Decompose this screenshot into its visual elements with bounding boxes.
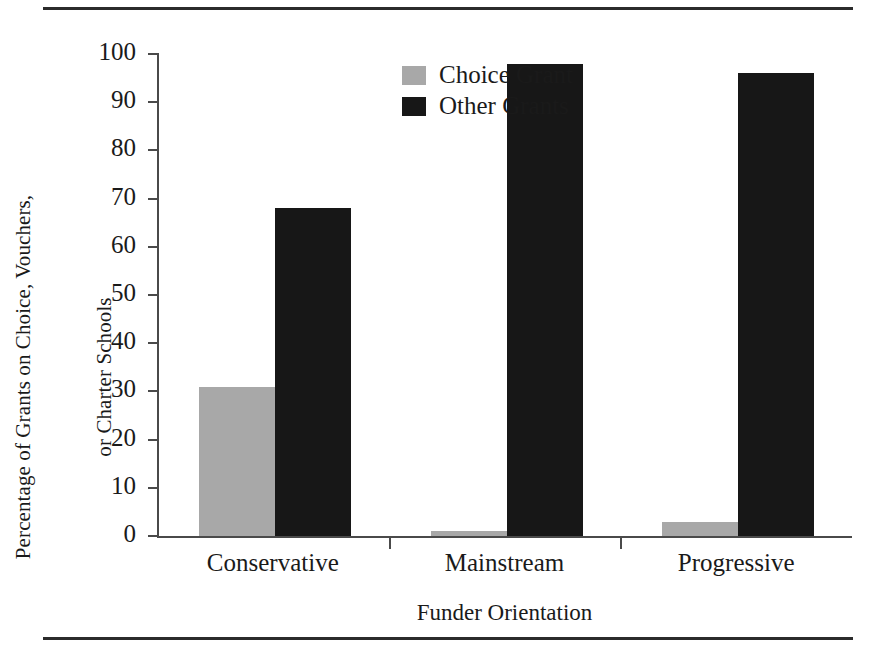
legend-label-choice-grant: Choice Grant — [439, 61, 573, 89]
x-axis-title: Funder Orientation — [157, 600, 852, 626]
x-axis-category-label-mainstream: Mainstream — [389, 549, 621, 577]
bar-chart-figure: Percentage of Grants on Choice, Vouchers… — [0, 14, 892, 634]
y-axis-tick: 80 — [148, 149, 159, 151]
y-axis-tick: 60 — [148, 246, 159, 248]
plot-area: 0102030405060708090100 ConservativeMains… — [157, 54, 852, 536]
y-axis-tick-label: 40 — [111, 328, 136, 354]
bar-progressive-choice-grant — [662, 522, 738, 536]
y-axis-tick: 0 — [148, 535, 159, 537]
legend: Choice Grant Other Grants — [402, 61, 573, 123]
bar-conservative-choice-grant — [199, 387, 275, 536]
x-axis-category-label-conservative: Conservative — [157, 549, 389, 577]
y-axis-tick: 40 — [148, 342, 159, 344]
y-axis-tick: 30 — [148, 390, 159, 392]
y-axis-tick: 100 — [148, 53, 159, 55]
legend-label-other-grants: Other Grants — [439, 92, 569, 120]
y-axis-tick-label: 80 — [111, 135, 136, 161]
y-axis-tick-label: 0 — [124, 521, 137, 547]
y-axis-title: Percentage of Grants on Choice, Vouchers… — [0, 117, 172, 637]
y-axis-tick-label: 10 — [111, 473, 136, 499]
x-axis-line — [157, 536, 852, 538]
bar-mainstream-other-grants — [507, 64, 583, 536]
y-axis-tick: 90 — [148, 101, 159, 103]
y-axis-tick: 20 — [148, 439, 159, 441]
legend-swatch-icon-choice-grant — [402, 66, 426, 85]
bar-progressive-other-grants — [738, 73, 814, 536]
y-axis-tick: 10 — [148, 487, 159, 489]
y-axis-tick: 70 — [148, 198, 159, 200]
y-axis-tick-label: 30 — [111, 376, 136, 402]
y-axis-tick: 50 — [148, 294, 159, 296]
bar-conservative-other-grants — [275, 208, 351, 536]
y-axis-tick-label: 20 — [111, 425, 136, 451]
y-axis-title-line-1: Percentage of Grants on Choice, Vouchers… — [10, 117, 37, 637]
legend-swatch-icon-other-grants — [402, 97, 426, 116]
y-axis-tick-label: 60 — [111, 232, 136, 258]
y-axis-tick-label: 90 — [111, 87, 136, 113]
top-horizontal-rule — [43, 7, 853, 10]
x-axis-tick — [389, 536, 391, 549]
y-axis-tick-label: 50 — [111, 280, 136, 306]
x-axis-category-label-progressive: Progressive — [620, 549, 852, 577]
legend-item-other-grants: Other Grants — [402, 92, 573, 120]
bottom-horizontal-rule — [43, 637, 853, 640]
y-axis-tick-label: 70 — [111, 184, 136, 210]
x-axis-tick — [620, 536, 622, 549]
legend-item-choice-grant: Choice Grant — [402, 61, 573, 89]
bar-mainstream-choice-grant — [431, 531, 507, 536]
y-axis-tick-label: 100 — [99, 39, 137, 65]
